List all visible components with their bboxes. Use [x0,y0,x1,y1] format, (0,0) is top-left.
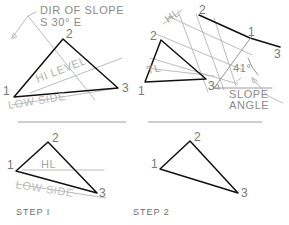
vertex-1-step1: 1 [7,158,14,172]
plan-vertex-1-top-right: 1 [138,84,145,98]
hl-label-step1: HL [41,158,56,170]
vertex-3-step2: 3 [241,186,248,200]
vertex-3-step1: 3 [99,186,106,200]
triangle-step2 [160,141,238,193]
plan-vertex-2-top-right: 2 [150,29,157,43]
slope-angle-label-line2: ANGLE [229,99,269,111]
dir-of-slope-leader [12,12,36,38]
vertex-2-top-left: 2 [66,27,73,41]
projector-a [168,16,252,55]
vertex-1-top-left: 1 [3,84,10,98]
projector-f [214,18,236,86]
vertex-3-top-left: 3 [122,81,129,95]
projector-b [156,34,243,70]
vertex-2-step2: 2 [194,130,201,144]
vertex-2-step1: 2 [52,131,59,145]
drawing-sheet: DIR OF SLOPE S 30° E HI LEVEL LOW SIDE 1… [0,0,289,225]
dir-of-slope-label-line2: S 30° E [40,16,82,28]
dir-of-slope-label-line1: DIR OF SLOPE [40,4,124,16]
plan-vertex-3-top-right: 3 [208,79,215,93]
caption-step2: STEP 2 [133,207,170,217]
edge-vertex-2: 2 [199,3,206,17]
edge-vertex-3: 3 [274,47,281,61]
tick-mark-1 [236,78,241,82]
edge-vertex-1: 1 [248,25,255,39]
vertex-1-step2: 1 [151,157,158,171]
edge-view-line [199,15,280,47]
slope-angle-value: 41° [233,62,251,74]
caption-step1: STEP I [16,207,50,217]
